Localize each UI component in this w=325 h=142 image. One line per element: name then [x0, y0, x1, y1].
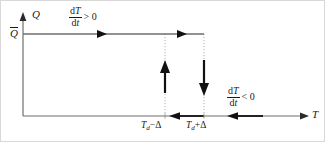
t-axis-label: T: [312, 109, 318, 120]
upward-switch-arrowhead: [160, 60, 170, 73]
heating-rate-relation: > 0: [84, 12, 97, 23]
heating-rate-annotation: dT dt > 0: [69, 6, 97, 28]
baseline-arrowhead-inner: [169, 112, 180, 120]
cooling-rate-relation: < 0: [242, 92, 255, 103]
upper-threshold-label: Td+Δ: [186, 121, 206, 132]
heating-rate-fraction: dT dt: [69, 6, 82, 28]
hysteresis-phase-diagram: [1, 1, 325, 142]
cooling-rate-denominator: dt: [228, 98, 238, 109]
cooling-rate-annotation: dT dt < 0: [227, 86, 255, 108]
q-axis-label: Q: [32, 9, 40, 20]
plateau-arrowhead-2: [177, 30, 187, 38]
lower-threshold-label: Td−Δ: [141, 121, 161, 132]
switching-arrows-group: [160, 60, 209, 96]
cooling-var-numerator: T: [233, 85, 239, 96]
q-bar-label: Q: [10, 27, 18, 39]
plateau-group: [23, 30, 204, 38]
q-axis-arrowhead: [20, 12, 27, 21]
plateau-arrowhead-1: [97, 30, 107, 38]
cooling-rate-fraction: dT dt: [227, 86, 240, 108]
lower-threshold-delta: Δ: [155, 120, 161, 130]
heating-rate-denominator: dt: [70, 18, 80, 29]
upper-threshold-delta: Δ: [200, 120, 206, 130]
heating-var-numerator: T: [75, 5, 81, 16]
heating-var-denominator: t: [76, 17, 79, 28]
threshold-guides-group: [165, 34, 204, 116]
q-bar-letter: Q: [10, 27, 18, 39]
baseline-arrowhead-outer: [227, 112, 238, 120]
t-axis-arrowhead: [300, 113, 309, 120]
cooling-var-denominator: t: [234, 97, 237, 108]
downward-switch-arrowhead: [199, 83, 209, 96]
